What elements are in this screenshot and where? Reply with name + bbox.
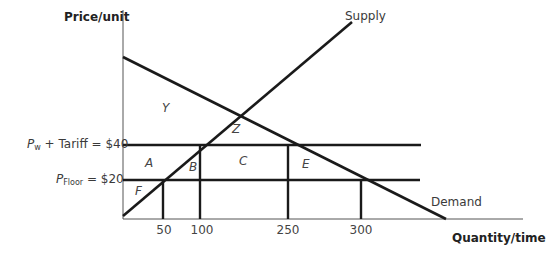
region-a: A bbox=[145, 157, 153, 169]
demand-curve bbox=[123, 57, 446, 219]
region-y: Y bbox=[162, 102, 169, 114]
diagram-canvas bbox=[0, 0, 551, 255]
region-c: C bbox=[239, 155, 247, 167]
region-z: Z bbox=[232, 123, 240, 135]
y-axis-label: Price/unit bbox=[64, 11, 129, 23]
price-floor-label: PFloor = $20 bbox=[56, 173, 124, 187]
x-tick-250: 250 bbox=[277, 224, 300, 236]
pfloor-text: = $20 bbox=[83, 172, 124, 186]
pfloor-subscript: Floor bbox=[63, 178, 83, 187]
demand-label: Demand bbox=[431, 196, 482, 208]
x-axis-label: Quantity/time bbox=[452, 232, 546, 244]
region-b: B bbox=[189, 161, 197, 173]
region-f: F bbox=[135, 185, 142, 197]
pw-tariff-label: Pw + Tariff = $40 bbox=[27, 138, 128, 152]
pw-tariff-text: + Tariff = $40 bbox=[41, 137, 129, 151]
region-e: E bbox=[302, 158, 310, 170]
supply-curve bbox=[123, 22, 352, 216]
supply-label: Supply bbox=[345, 10, 386, 22]
x-tick-50: 50 bbox=[156, 224, 171, 236]
x-tick-100: 100 bbox=[191, 224, 214, 236]
x-tick-300: 300 bbox=[350, 224, 373, 236]
